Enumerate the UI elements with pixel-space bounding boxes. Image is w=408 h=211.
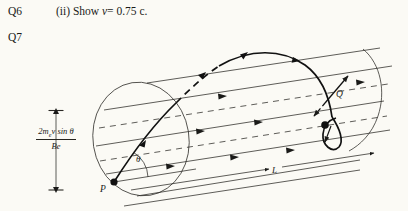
point-q-marker: [321, 121, 329, 129]
cylinder-field-diagram: P Q θ L: [0, 0, 408, 211]
point-q-label: Q: [336, 89, 343, 99]
scanned-page: Q6 (ii) Show v= 0.75 c. Q7 2mev sin θ Be: [0, 0, 408, 211]
hidden-field-line: [99, 84, 388, 128]
field-line: [106, 130, 390, 174]
electron-trajectory-top: [219, 53, 332, 117]
point-p-marker: [110, 178, 117, 185]
length-dimension-line: [131, 153, 374, 190]
field-line: [104, 66, 392, 110]
angle-theta-label: θ: [136, 154, 141, 164]
diameter-dimension-arrow: [49, 108, 64, 193]
electron-trajectory-hidden: [176, 66, 219, 103]
hidden-field-line-group: [99, 84, 388, 161]
baseline-guide: [124, 170, 360, 206]
length-l-label: L: [271, 165, 277, 175]
velocity-vector-tail-at-q: [314, 103, 325, 116]
point-p-label: P: [99, 184, 106, 194]
